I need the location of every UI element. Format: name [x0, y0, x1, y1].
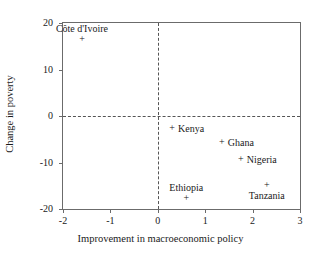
data-point-marker: +	[238, 154, 244, 164]
data-point-label: Ghana	[228, 137, 254, 148]
y-axis-tick-label: -20	[5, 204, 53, 214]
y-axis-tick	[59, 163, 63, 164]
x-axis-tick-label: 1	[203, 216, 208, 226]
y-axis-tick	[59, 70, 63, 71]
data-point-label: Nigeria	[247, 154, 277, 165]
x-axis-title: Improvement in macroeconomic policy	[0, 233, 321, 245]
x-axis-tick-label: -1	[106, 216, 114, 226]
x-axis-tick-label: 3	[298, 216, 303, 226]
data-point-label: Ethiopia	[169, 182, 203, 193]
data-point-marker: +	[264, 180, 270, 190]
data-point-label: Côte d'Ivoire	[56, 23, 108, 34]
zero-reference-line-horizontal	[63, 116, 300, 117]
x-axis-tick	[253, 209, 254, 213]
x-axis-tick	[158, 209, 159, 213]
zero-reference-line-vertical	[158, 23, 159, 209]
y-axis-tick	[59, 116, 63, 117]
x-axis-tick	[300, 209, 301, 213]
scatter-plot-figure: 20100-10-20-2-10123+Côte d'Ivoire+Kenya+…	[0, 0, 321, 256]
x-axis-tick	[63, 209, 64, 213]
data-point-marker: +	[169, 123, 175, 133]
plot-area: 20100-10-20-2-10123+Côte d'Ivoire+Kenya+…	[62, 22, 301, 210]
y-axis-tick-label: 20	[5, 18, 53, 28]
x-axis-tick	[110, 209, 111, 213]
data-point-marker: +	[79, 34, 85, 44]
x-axis-tick-label: 2	[250, 216, 255, 226]
data-point-label: Tanzania	[249, 190, 285, 201]
data-point-label: Kenya	[178, 123, 204, 134]
data-point-marker: +	[219, 137, 225, 147]
data-point-marker: +	[183, 193, 189, 203]
y-axis-title: Change in poverty	[4, 44, 16, 184]
x-axis-tick-label: -2	[59, 216, 67, 226]
x-axis-tick	[205, 209, 206, 213]
x-axis-tick-label: 0	[155, 216, 160, 226]
